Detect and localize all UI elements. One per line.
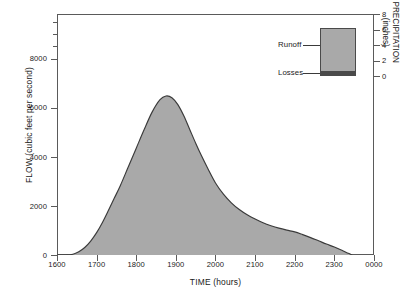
precipitation-swatch	[320, 28, 356, 76]
y2-axis-title-line2: (inches)	[381, 18, 390, 47]
y-minor-tick-8500	[53, 46, 57, 47]
losses-band	[321, 71, 355, 75]
x-tick-label-2200: 2200	[275, 261, 315, 269]
y-tick-2000	[51, 206, 57, 207]
x-tick-label-1800: 1800	[116, 261, 156, 269]
y-tick-label-0: 0	[3, 252, 47, 260]
x-tick-label-2100: 2100	[235, 261, 275, 269]
x-tick-label-1900: 1900	[156, 261, 196, 269]
y-minor-tick-9500	[53, 22, 57, 23]
x-tick-label-0000: 0000	[354, 261, 394, 269]
y2-axis-title: PRECIPITATION (inches)	[380, 0, 401, 92]
y-tick-8000	[51, 59, 57, 60]
losses-leader-line	[303, 73, 320, 74]
y2-axis-title-line1: PRECIPITATION	[391, 1, 400, 63]
y-tick-6000	[51, 108, 57, 109]
x-tick-label-1600: 1600	[37, 261, 77, 269]
x-axis-title: TIME (hours)	[57, 277, 374, 287]
x-tick-label-2000: 2000	[195, 261, 235, 269]
runoff-leader-line	[303, 45, 320, 46]
hydrograph-chart: 8000 6000 4000 2000 0 FLOW (cubic feet p…	[0, 0, 419, 297]
runoff-legend-label: Runoff	[278, 41, 301, 49]
y-axis-title: FLOW (cubic feet per second)	[24, 40, 34, 210]
losses-legend-label: Losses	[278, 69, 303, 77]
x-tick-label-2300: 2300	[314, 261, 354, 269]
y-tick-4000	[51, 157, 57, 158]
x-tick-label-1700: 1700	[77, 261, 117, 269]
y-minor-tick-9000	[53, 34, 57, 35]
